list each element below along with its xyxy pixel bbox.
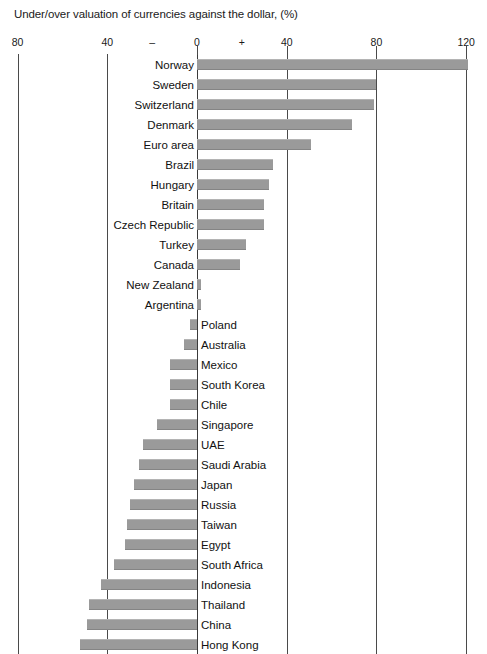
- row-label-switzerland: Switzerland: [135, 98, 194, 112]
- bar-hungary: [197, 179, 269, 190]
- x-axis-tick-1: 40: [101, 36, 113, 48]
- bar-singapore: [157, 419, 197, 430]
- row-label-uae: UAE: [201, 438, 225, 452]
- chart-title: Under/over valuation of currencies again…: [14, 8, 298, 20]
- row-label-norway: Norway: [155, 58, 194, 72]
- chart-row: Czech Republic: [0, 215, 487, 235]
- row-label-egypt: Egypt: [201, 538, 230, 552]
- x-axis-tick-labels: 8040–0+4080120: [0, 36, 487, 52]
- axis-tick-mark-40: [287, 46, 288, 55]
- chart-row: Australia: [0, 335, 487, 355]
- chart-row: Singapore: [0, 415, 487, 435]
- bar-hong-kong: [80, 639, 197, 650]
- row-label-chile: Chile: [201, 398, 227, 412]
- row-label-taiwan: Taiwan: [201, 518, 237, 532]
- bar-japan: [134, 479, 197, 490]
- bar-mexico: [170, 359, 197, 370]
- bar-egypt: [125, 539, 197, 550]
- bar-brazil: [197, 159, 273, 170]
- row-label-new-zealand: New Zealand: [126, 278, 194, 292]
- chart-row: Canada: [0, 255, 487, 275]
- chart-row: Norway: [0, 55, 487, 75]
- row-label-japan: Japan: [201, 478, 232, 492]
- row-label-poland: Poland: [201, 318, 237, 332]
- row-label-hungary: Hungary: [151, 178, 194, 192]
- chart-row: New Zealand: [0, 275, 487, 295]
- row-label-sweden: Sweden: [152, 78, 194, 92]
- chart-row: Egypt: [0, 535, 487, 555]
- bar-saudi-arabia: [139, 459, 197, 470]
- chart-row: China: [0, 615, 487, 635]
- plot-area: NorwaySwedenSwitzerlandDenmarkEuro areaB…: [0, 54, 487, 654]
- chart-row: Argentina: [0, 295, 487, 315]
- chart-row: Britain: [0, 195, 487, 215]
- chart-row: Denmark: [0, 115, 487, 135]
- chart-row: Indonesia: [0, 575, 487, 595]
- chart-row: Japan: [0, 475, 487, 495]
- row-label-argentina: Argentina: [145, 298, 194, 312]
- axis-tick-mark-120: [466, 46, 467, 55]
- row-label-britain: Britain: [161, 198, 194, 212]
- row-label-singapore: Singapore: [201, 418, 253, 432]
- chart-row: Poland: [0, 315, 487, 335]
- bar-chile: [170, 399, 197, 410]
- chart-row: Brazil: [0, 155, 487, 175]
- bar-czech-republic: [197, 219, 264, 230]
- x-axis-tick-0: 80: [12, 36, 24, 48]
- bar-new-zealand: [197, 279, 201, 290]
- x-axis-tick-4: +: [239, 36, 245, 48]
- currency-valuation-chart: Under/over valuation of currencies again…: [0, 0, 487, 654]
- x-axis-tick-2: –: [149, 36, 155, 48]
- bar-britain: [197, 199, 264, 210]
- axis-tick-mark-0: [197, 46, 198, 55]
- bar-south-africa: [114, 559, 197, 570]
- bar-thailand: [89, 599, 197, 610]
- row-label-thailand: Thailand: [201, 598, 245, 612]
- bar-indonesia: [101, 579, 197, 590]
- chart-row: Sweden: [0, 75, 487, 95]
- bar-euro-area: [197, 139, 311, 150]
- bar-turkey: [197, 239, 246, 250]
- row-label-russia: Russia: [201, 498, 236, 512]
- row-label-australia: Australia: [201, 338, 246, 352]
- bar-sweden: [197, 79, 376, 90]
- row-label-indonesia: Indonesia: [201, 578, 251, 592]
- bar-denmark: [197, 119, 352, 130]
- bar-norway: [197, 59, 468, 70]
- bar-poland: [190, 319, 197, 330]
- bar-canada: [197, 259, 240, 270]
- chart-row: South Africa: [0, 555, 487, 575]
- row-label-brazil: Brazil: [165, 158, 194, 172]
- row-label-hong-kong: Hong Kong: [201, 638, 259, 652]
- row-label-denmark: Denmark: [147, 118, 194, 132]
- chart-row: Mexico: [0, 355, 487, 375]
- chart-row: Switzerland: [0, 95, 487, 115]
- row-label-canada: Canada: [154, 258, 194, 272]
- chart-row: Euro area: [0, 135, 487, 155]
- bar-taiwan: [127, 519, 197, 530]
- bar-south-korea: [170, 379, 197, 390]
- chart-row: Hong Kong: [0, 635, 487, 654]
- bar-china: [87, 619, 197, 630]
- chart-row: Taiwan: [0, 515, 487, 535]
- chart-row: Saudi Arabia: [0, 455, 487, 475]
- chart-row: Russia: [0, 495, 487, 515]
- row-label-turkey: Turkey: [159, 238, 194, 252]
- bar-uae: [143, 439, 197, 450]
- chart-row: Chile: [0, 395, 487, 415]
- bar-switzerland: [197, 99, 374, 110]
- chart-row: Turkey: [0, 235, 487, 255]
- bar-australia: [184, 339, 197, 350]
- axis-tick-mark-80: [376, 46, 377, 55]
- chart-row: South Korea: [0, 375, 487, 395]
- row-label-china: China: [201, 618, 231, 632]
- chart-row: Hungary: [0, 175, 487, 195]
- row-label-euro-area: Euro area: [143, 138, 194, 152]
- chart-row: UAE: [0, 435, 487, 455]
- bar-russia: [130, 499, 197, 510]
- bar-argentina: [197, 299, 201, 310]
- row-label-czech-republic: Czech Republic: [113, 218, 194, 232]
- chart-row: Thailand: [0, 595, 487, 615]
- row-label-south-korea: South Korea: [201, 378, 265, 392]
- row-label-saudi-arabia: Saudi Arabia: [201, 458, 266, 472]
